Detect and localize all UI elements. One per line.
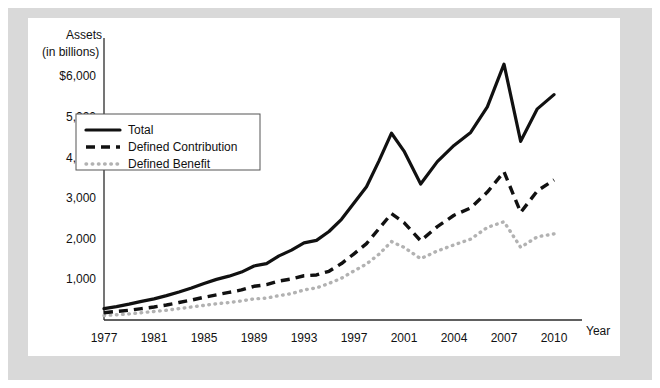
series-line-defined-benefit <box>104 222 554 316</box>
x-tick-label: 1981 <box>141 331 168 345</box>
y-axis-tick-labels: $6,0005,0004,0003,0002,0001,000 <box>59 69 96 286</box>
x-tick-label: 2001 <box>391 331 418 345</box>
line-chart: Assets (in billions) Year $6,0005,0004,0… <box>28 18 620 356</box>
legend-label: Defined Benefit <box>128 157 211 171</box>
legend-label: Defined Contribution <box>128 140 237 154</box>
y-axis-title-line1: Assets <box>66 28 102 42</box>
y-tick-label: 2,000 <box>66 232 96 246</box>
y-axis-title-line2: (in billions) <box>42 45 99 59</box>
axis-titles: Assets (in billions) Year <box>42 28 610 338</box>
chart-panel: Assets (in billions) Year $6,0005,0004,0… <box>28 18 620 356</box>
series-layer <box>104 64 554 315</box>
y-tick-label: 1,000 <box>66 272 96 286</box>
x-tick-label: 1993 <box>291 331 318 345</box>
x-axis-tick-labels: 1977198119851989199319972001200420072010 <box>91 331 568 345</box>
x-tick-label: 1985 <box>191 331 218 345</box>
x-tick-label: 1989 <box>241 331 268 345</box>
x-axis-title: Year <box>586 324 610 338</box>
legend-label: Total <box>128 123 153 137</box>
figure-root: Assets (in billions) Year $6,0005,0004,0… <box>0 0 660 388</box>
x-tick-label: 2010 <box>541 331 568 345</box>
series-line-defined-contribution <box>104 172 554 313</box>
y-tick-label: 3,000 <box>66 191 96 205</box>
x-tick-label: 2007 <box>491 331 518 345</box>
x-tick-label: 2004 <box>441 331 468 345</box>
x-tick-label: 1997 <box>341 331 368 345</box>
x-tick-label: 1977 <box>91 331 118 345</box>
y-tick-label: $6,000 <box>59 69 96 83</box>
chart-legend: TotalDefined ContributionDefined Benefit <box>76 114 260 171</box>
